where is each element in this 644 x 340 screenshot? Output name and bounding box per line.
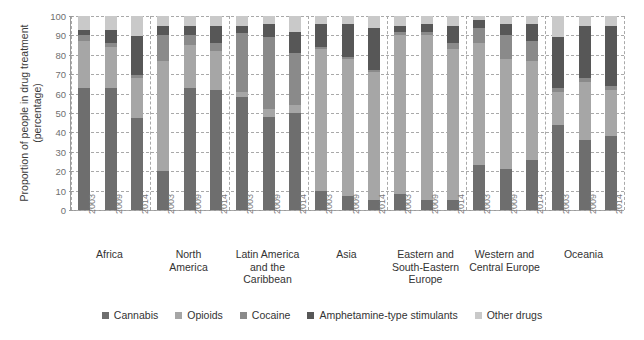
bar-segment-amphetamine-type-stimulants <box>552 37 564 87</box>
bar-segment-opioids <box>263 109 275 117</box>
bar-north-america-2009[interactable] <box>184 16 196 210</box>
legend-swatch-icon <box>307 312 314 319</box>
bar-africa-2003[interactable] <box>78 16 90 210</box>
bar-segment-opioids <box>526 61 538 160</box>
bar-oceania-2009[interactable] <box>579 16 591 210</box>
legend-swatch-icon <box>475 312 482 319</box>
bar-segment-cannabis <box>210 90 222 210</box>
legend-item-opioids[interactable]: Opioids <box>175 309 223 321</box>
bar-segment-other-drugs <box>421 16 433 24</box>
bar-segment-cocaine <box>473 28 485 44</box>
bar-segment-other-drugs <box>263 16 275 24</box>
bar-western-and-central-europe-2014[interactable] <box>526 16 538 210</box>
x-tick-label-year: 2009 <box>588 194 598 214</box>
bar-segment-opioids <box>605 90 617 137</box>
y-tick-label: 10 <box>40 185 66 196</box>
bar-segment-opioids <box>289 105 301 113</box>
vertical-gridline <box>387 16 388 210</box>
bar-segment-amphetamine-type-stimulants <box>236 26 248 34</box>
bar-latin-america-and-the-caribbean-2009[interactable] <box>263 16 275 210</box>
bar-segment-other-drugs <box>447 16 459 26</box>
bar-segment-other-drugs <box>500 16 512 24</box>
bar-latin-america-and-the-caribbean-2003[interactable] <box>236 16 248 210</box>
vertical-gridline <box>308 16 309 210</box>
bar-segment-opioids <box>342 59 354 197</box>
bar-eastern-and-south-eastern-europe-2014[interactable] <box>447 16 459 210</box>
vertical-gridline <box>545 16 546 210</box>
bar-north-america-2014[interactable] <box>210 16 222 210</box>
legend-swatch-icon <box>240 312 247 319</box>
y-tick-mark <box>69 152 73 153</box>
x-tick-label-year: 2009 <box>193 194 203 214</box>
bar-segment-opioids <box>473 43 485 165</box>
bar-africa-2009[interactable] <box>105 16 117 210</box>
bar-segment-cocaine <box>289 53 301 105</box>
bar-segment-amphetamine-type-stimulants <box>579 26 591 78</box>
bar-western-and-central-europe-2003[interactable] <box>473 16 485 210</box>
bar-segment-amphetamine-type-stimulants <box>184 26 196 36</box>
bar-asia-2003[interactable] <box>315 16 327 210</box>
y-tick-mark <box>69 191 73 192</box>
bar-segment-amphetamine-type-stimulants <box>263 24 275 38</box>
bar-segment-amphetamine-type-stimulants <box>157 26 169 36</box>
bar-segment-other-drugs <box>78 16 90 30</box>
y-tick-mark <box>69 210 73 211</box>
bar-segment-amphetamine-type-stimulants <box>368 28 380 71</box>
region-label-line: Caribbean <box>218 273 317 286</box>
bar-segment-opioids <box>210 51 222 90</box>
bar-segment-opioids <box>394 35 406 194</box>
y-axis-tick-labels: 1009080706050403020100 <box>40 16 66 210</box>
bar-segment-other-drugs <box>394 16 406 26</box>
bar-eastern-and-south-eastern-europe-2009[interactable] <box>421 16 433 210</box>
legend-item-other-drugs[interactable]: Other drugs <box>475 309 542 321</box>
plot-inner <box>71 16 624 210</box>
bar-segment-amphetamine-type-stimulants <box>315 24 327 47</box>
bar-segment-other-drugs <box>552 16 564 37</box>
bar-segment-amphetamine-type-stimulants <box>210 26 222 43</box>
bar-segment-cocaine <box>184 35 196 45</box>
bar-asia-2014[interactable] <box>368 16 380 210</box>
x-tick-label-year: 2003 <box>245 194 255 214</box>
bar-eastern-and-south-eastern-europe-2003[interactable] <box>394 16 406 210</box>
chart-container: Proportion of people in drug treatment (… <box>0 0 644 340</box>
bar-segment-amphetamine-type-stimulants <box>473 20 485 28</box>
y-tick-mark <box>69 74 73 75</box>
bar-asia-2009[interactable] <box>342 16 354 210</box>
legend-label: Cocaine <box>252 309 291 321</box>
vertical-gridline <box>624 16 625 210</box>
legend-item-cocaine[interactable]: Cocaine <box>240 309 291 321</box>
bar-segment-cannabis <box>184 88 196 210</box>
vertical-gridline <box>229 16 230 210</box>
x-tick-label-year: 2003 <box>87 194 97 214</box>
region-label-oceania: Oceania <box>534 248 633 261</box>
legend-swatch-icon <box>175 312 182 319</box>
legend-item-amphetamine-type-stimulants[interactable]: Amphetamine-type stimulants <box>307 309 457 321</box>
y-tick-label: 90 <box>40 30 66 41</box>
bar-oceania-2003[interactable] <box>552 16 564 210</box>
y-tick-label: 40 <box>40 127 66 138</box>
bar-segment-amphetamine-type-stimulants <box>500 24 512 36</box>
bar-segment-opioids <box>368 72 380 200</box>
bar-segment-opioids <box>105 47 117 88</box>
bar-segment-other-drugs <box>157 16 169 26</box>
x-tick-label-year: 2014 <box>219 194 229 214</box>
bar-western-and-central-europe-2009[interactable] <box>500 16 512 210</box>
bar-latin-america-and-the-caribbean-2014[interactable] <box>289 16 301 210</box>
y-tick-mark <box>69 132 73 133</box>
bar-north-america-2003[interactable] <box>157 16 169 210</box>
x-tick-label-year: 2014 <box>456 194 466 214</box>
y-tick-mark <box>69 171 73 172</box>
bar-segment-amphetamine-type-stimulants <box>605 26 617 86</box>
x-tick-label-year: 2014 <box>140 194 150 214</box>
y-tick-label: 30 <box>40 146 66 157</box>
legend-label: Cannabis <box>114 309 158 321</box>
vertical-gridline <box>466 16 467 210</box>
bar-segment-cocaine <box>210 43 222 51</box>
legend-item-cannabis[interactable]: Cannabis <box>102 309 158 321</box>
bar-segment-other-drugs <box>342 16 354 24</box>
y-tick-mark <box>69 113 73 114</box>
bar-oceania-2014[interactable] <box>605 16 617 210</box>
bar-segment-other-drugs <box>131 16 143 36</box>
vertical-gridline <box>150 16 151 210</box>
bar-africa-2014[interactable] <box>131 16 143 210</box>
